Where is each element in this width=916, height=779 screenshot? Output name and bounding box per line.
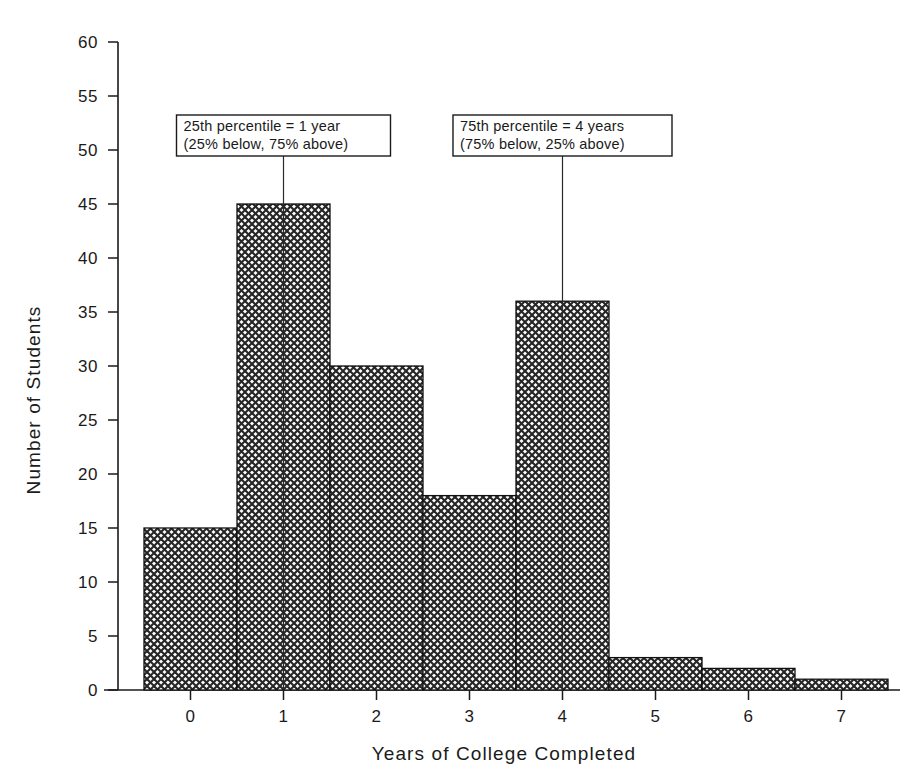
y-tick-label-60: 60 — [78, 33, 98, 52]
y-tick-label-15: 15 — [78, 519, 98, 538]
x-tick-label-3: 3 — [465, 707, 475, 726]
y-axis-ticks — [108, 42, 118, 690]
bar-0 — [144, 528, 237, 690]
x-tick-label-1: 1 — [279, 707, 289, 726]
y-tick-label-35: 35 — [78, 303, 98, 322]
x-tick-label-0: 0 — [186, 707, 196, 726]
y-tick-label-20: 20 — [78, 465, 98, 484]
bar-3 — [423, 496, 516, 690]
y-tick-label-30: 30 — [78, 357, 98, 376]
histogram-bars — [144, 204, 888, 690]
bar-2 — [330, 366, 423, 690]
y-tick-label-40: 40 — [78, 249, 98, 268]
bar-7 — [795, 679, 888, 690]
bar-5 — [609, 658, 702, 690]
x-tick-label-5: 5 — [651, 707, 661, 726]
y-tick-label-55: 55 — [78, 87, 98, 106]
x-tick-label-4: 4 — [558, 707, 568, 726]
chart-canvas: 0 5 10 15 20 25 30 35 40 45 50 55 60 — [0, 0, 916, 779]
p75-annotation-line1: 75th percentile = 4 years — [460, 118, 624, 134]
y-tick-label-50: 50 — [78, 141, 98, 160]
y-tick-label-25: 25 — [78, 411, 98, 430]
x-tick-label-7: 7 — [837, 707, 847, 726]
x-axis-title: Years of College Completed — [372, 743, 637, 764]
y-tick-label-10: 10 — [78, 573, 98, 592]
y-tick-label-45: 45 — [78, 195, 98, 214]
x-axis-tick-labels: 0 1 2 3 4 5 6 7 — [186, 707, 847, 726]
y-tick-label-0: 0 — [88, 681, 98, 700]
y-axis-tick-labels: 0 5 10 15 20 25 30 35 40 45 50 55 60 — [78, 33, 98, 700]
p25-annotation-line2: (25% below, 75% above) — [184, 136, 349, 152]
p25-annotation-line1: 25th percentile = 1 year — [184, 118, 341, 134]
y-tick-label-5: 5 — [88, 627, 98, 646]
y-axis-title: Number of Students — [23, 306, 44, 495]
x-axis-ticks — [191, 690, 842, 700]
x-tick-label-2: 2 — [372, 707, 382, 726]
p75-annotation-line2: (75% below, 25% above) — [460, 136, 625, 152]
histogram-figure: 0 5 10 15 20 25 30 35 40 45 50 55 60 — [0, 0, 916, 779]
x-tick-label-6: 6 — [744, 707, 754, 726]
bar-6 — [702, 668, 795, 690]
